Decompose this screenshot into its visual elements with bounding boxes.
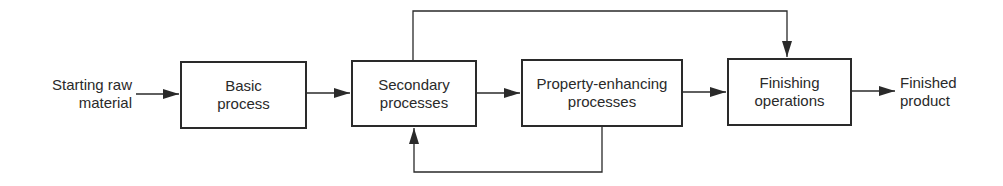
node-finishing-operations: Finishing operations xyxy=(727,58,852,126)
node-property-enhancing-processes: Property-enhancing processes xyxy=(521,59,683,127)
connector-layer xyxy=(0,0,1003,186)
output-label: Finished product xyxy=(900,74,957,110)
arrow-bottom-feedback xyxy=(414,127,602,172)
node-basic-process: Basic process xyxy=(180,61,307,129)
input-label: Starting raw material xyxy=(36,76,132,112)
arrow-top-bypass xyxy=(413,11,787,60)
node-secondary-processes: Secondary processes xyxy=(351,60,477,127)
